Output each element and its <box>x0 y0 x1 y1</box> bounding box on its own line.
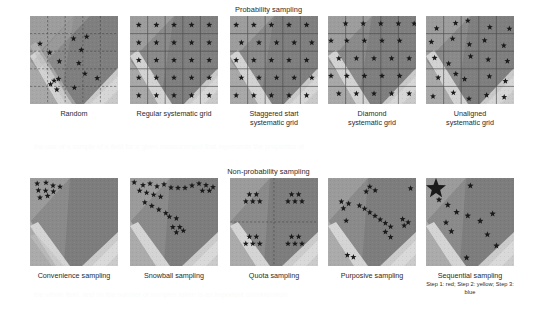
photo-tile-unaligned <box>426 16 514 104</box>
panel-label: Unaligned <box>454 109 486 118</box>
sampling-overlay-quota <box>230 178 318 266</box>
panel-unaligned-systematic-grid: Unaligned systematic grid <box>426 16 514 127</box>
dashed-quadrant-lines <box>230 178 318 266</box>
sampling-overlay-sequential <box>426 178 514 266</box>
panel-label: Random <box>60 109 87 118</box>
solid-grid-lines <box>426 16 514 104</box>
star-markers <box>428 18 512 102</box>
panel-caption-sequential: Sequential sampling Step 1: red; Step 2:… <box>426 271 514 296</box>
panel-label: Regular systematic grid <box>136 109 211 118</box>
section-probability-sampling: Probability sampling <box>0 4 537 148</box>
photo-tile-snowball <box>130 178 218 266</box>
panel-label: Convenience sampling <box>38 271 111 280</box>
photo-tile-random <box>30 16 118 104</box>
sampling-overlay-snowball <box>130 178 218 266</box>
photo-tile-quota <box>230 178 318 266</box>
photo-tile-diamond <box>328 16 416 104</box>
photo-tile-convenience <box>30 178 118 266</box>
panel-row-probability: Random <box>0 16 537 148</box>
panel-caption-staggered-start: Staggered start systematic grid <box>230 109 318 127</box>
sampling-designs-figure: the use of a sample of a field for a giv… <box>0 0 537 312</box>
panel-caption-snowball: Snowball sampling <box>130 271 218 280</box>
panel-caption-unaligned: Unaligned systematic grid <box>426 109 514 127</box>
panel-label-line2: systematic grid <box>250 118 298 127</box>
sampling-overlay-purposive <box>328 178 416 266</box>
solid-grid-lines <box>328 16 416 104</box>
photo-tile-regular-systematic-grid <box>130 16 218 104</box>
sampling-overlay-staggered-start <box>230 16 318 104</box>
panel-purposive-sampling: Purposive sampling <box>328 178 416 280</box>
star-markers <box>426 178 500 261</box>
section-title-nonprobability: Non-probability sampling <box>0 166 537 178</box>
star-markers <box>37 34 100 93</box>
panel-quota-sampling: Quota sampling <box>230 178 318 280</box>
star-markers <box>328 20 416 96</box>
star-markers <box>338 184 413 260</box>
panel-caption-purposive: Purposive sampling <box>328 271 416 280</box>
sampling-overlay-regular-systematic-grid <box>130 16 218 104</box>
panel-label-line2: systematic grid <box>348 118 396 127</box>
panel-caption-convenience: Convenience sampling <box>30 271 118 280</box>
panel-sequential-sampling: Sequential sampling Step 1: red; Step 2:… <box>426 178 514 296</box>
star-markers <box>131 179 216 235</box>
section-nonprobability-sampling: Non-probability sampling <box>0 166 537 310</box>
panel-label: Diamond <box>358 109 387 118</box>
star-markers <box>34 180 63 201</box>
photo-tile-purposive <box>328 178 416 266</box>
panel-staggered-start-systematic-grid: Staggered start systematic grid <box>230 16 318 127</box>
panel-snowball-sampling: Snowball sampling <box>130 178 218 280</box>
panel-regular-systematic-grid: Regular systematic grid <box>130 16 218 118</box>
panel-caption-diamond: Diamond systematic grid <box>328 109 416 127</box>
panel-caption-quota: Quota sampling <box>230 271 318 280</box>
panel-label: Snowball sampling <box>144 271 204 280</box>
section-title-probability: Probability sampling <box>0 4 537 16</box>
panel-random: Random <box>30 16 118 118</box>
sampling-overlay-convenience <box>30 178 118 266</box>
panel-label-line2: systematic grid <box>446 118 494 127</box>
dashed-grid-lines <box>30 16 118 104</box>
panel-diamond-systematic-grid: Diamond systematic grid <box>328 16 416 127</box>
sampling-overlay-random <box>30 16 118 104</box>
sampling-overlay-diamond <box>328 16 416 104</box>
panel-convenience-sampling: Convenience sampling <box>30 178 118 280</box>
panel-caption-random: Random <box>30 109 118 118</box>
panel-label: Sequential sampling <box>438 271 503 280</box>
panel-label: Quota sampling <box>249 271 299 280</box>
panel-row-nonprobability: Convenience sampling <box>0 178 537 310</box>
photo-tile-sequential <box>426 178 514 266</box>
panel-label-substeps: Step 1: red; Step 2: yellow; Step 3: blu… <box>426 281 514 296</box>
sampling-overlay-unaligned <box>426 16 514 104</box>
photo-tile-staggered-start <box>230 16 318 104</box>
panel-caption-regular-systematic-grid: Regular systematic grid <box>130 109 218 118</box>
panel-label: Staggered start <box>249 109 298 118</box>
panel-label: Purposive sampling <box>341 271 404 280</box>
